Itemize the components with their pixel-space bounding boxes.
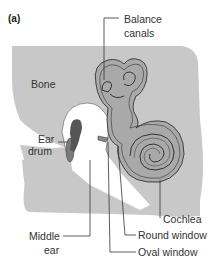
label-balance-canals-line1: Balance — [124, 13, 162, 25]
label-ear-drum-line2: drum — [28, 145, 52, 157]
label-ear-drum-line1: Ear — [38, 133, 54, 145]
label-oval-window: Oval window — [138, 246, 198, 258]
label-balance-canals-line2: canals — [124, 27, 154, 39]
label-middle-ear-line1: Middle — [29, 230, 60, 242]
label-bone: Bone — [31, 78, 56, 90]
label-cochlea: Cochlea — [163, 213, 202, 225]
label-round-window: Round window — [138, 229, 207, 241]
panel-label: (a) — [8, 13, 20, 24]
label-middle-ear-line2: ear — [44, 244, 59, 256]
